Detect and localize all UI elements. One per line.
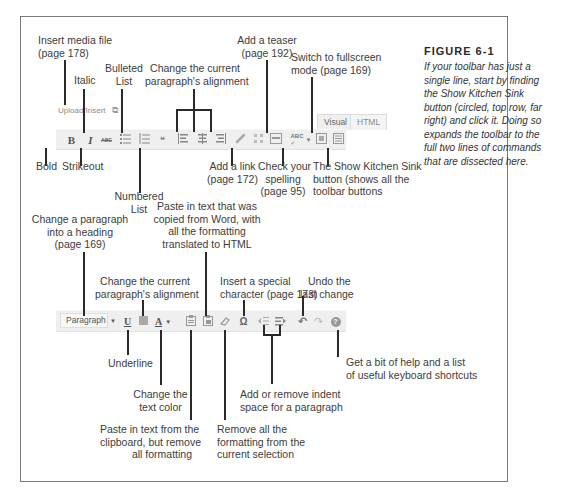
- leader-line: [266, 60, 268, 133]
- callout-bulleted-list: Bulleted List: [104, 62, 144, 87]
- kitchen-sink-button[interactable]: [331, 131, 346, 148]
- callout-text: mode (page 169): [291, 64, 381, 77]
- align-right-button[interactable]: [213, 131, 228, 148]
- leader-line: [127, 330, 129, 355]
- redo-button[interactable]: ↷: [311, 313, 326, 330]
- kitchen-sink-icon: [333, 133, 344, 146]
- align-right-icon: [215, 133, 226, 146]
- paste-plain-text-button[interactable]: [183, 313, 198, 330]
- callout-text: spelling: [258, 173, 308, 186]
- callout-text: Remove all the: [217, 423, 305, 436]
- leader-line: [337, 330, 339, 357]
- paste-from-word-button[interactable]: [200, 313, 215, 330]
- leader-line: [121, 89, 123, 133]
- callout-spelling: Check your spelling (page 95): [258, 160, 308, 198]
- insert-link-button[interactable]: [233, 131, 248, 148]
- callout-kitchen-sink: The Show Kitchen Sink button (shows all …: [313, 160, 422, 198]
- format-dropdown-button[interactable]: ▼: [108, 313, 118, 328]
- align-center-icon: [197, 133, 208, 146]
- chevron-down-icon: ▼: [306, 137, 312, 143]
- numbered-list-button[interactable]: [137, 131, 152, 148]
- leader-line: [243, 300, 245, 316]
- callout-paste-plain: Paste in text from the clipboard, but re…: [100, 423, 192, 461]
- tab-html[interactable]: HTML: [350, 114, 387, 130]
- blockquote-button[interactable]: ❝: [155, 131, 170, 148]
- callout-text: List: [104, 75, 144, 88]
- eraser-icon: [220, 316, 230, 328]
- callout-text: space for a paragraph: [240, 401, 343, 414]
- callout-fullscreen: Switch to fullscreen mode (page 169): [291, 51, 381, 76]
- justify-icon: [139, 316, 148, 327]
- tab-html-label: HTML: [357, 117, 380, 127]
- leader-line: [224, 330, 226, 420]
- callout-text: (page 169): [30, 238, 130, 251]
- callout-text: Insert media file: [38, 34, 112, 47]
- callout-text: Change the: [133, 388, 188, 401]
- callout-alignment-top: Change the current paragraph's alignment: [145, 62, 245, 87]
- leader-line: [302, 296, 304, 316]
- callout-text: button (shows all the: [313, 173, 422, 186]
- callout-text: paragraph's alignment: [95, 288, 195, 301]
- callout-text: Add a teaser: [232, 34, 302, 47]
- media-icon: ⧉: [112, 105, 118, 115]
- bold-icon: B: [68, 134, 75, 146]
- leader-line: [193, 109, 195, 132]
- bold-button[interactable]: B: [64, 131, 79, 148]
- leader-line: [210, 109, 212, 132]
- leader-line: [311, 77, 313, 133]
- help-icon: ?: [331, 317, 341, 327]
- tab-visual[interactable]: Visual: [317, 114, 354, 130]
- callout-paste-word: Paste in text that was copied from Word,…: [152, 200, 262, 250]
- fullscreen-button[interactable]: [314, 131, 329, 148]
- undo-icon: ↶: [298, 315, 307, 328]
- callout-strikeout: Strikeout: [62, 160, 103, 173]
- fullscreen-icon: [316, 133, 327, 146]
- leader-line: [83, 252, 85, 316]
- callout-text: text color: [133, 401, 188, 414]
- leader-line: [176, 109, 178, 132]
- spellcheck-button[interactable]: ABC✓ ▼: [290, 131, 312, 148]
- align-center-button[interactable]: [195, 131, 210, 148]
- strikethrough-button[interactable]: ABC: [99, 131, 114, 148]
- callout-text: paragraph's alignment: [145, 75, 245, 88]
- leader-line: [142, 300, 144, 316]
- chevron-down-icon: ▼: [110, 318, 116, 324]
- strikethrough-icon: ABC: [101, 137, 112, 143]
- align-left-button[interactable]: [176, 131, 191, 148]
- help-button[interactable]: ?: [328, 313, 343, 330]
- align-left-icon: [178, 133, 189, 146]
- bulleted-list-button[interactable]: [118, 131, 133, 148]
- callout-text: Add or remove indent: [240, 388, 343, 401]
- callout-help: Get a bit of help and a list of useful k…: [346, 356, 477, 381]
- upload-insert-label[interactable]: Upload/Insert ⧉: [58, 105, 118, 116]
- callout-underline: Underline: [108, 357, 153, 370]
- callout-text: into a heading: [30, 226, 130, 239]
- insert-more-button[interactable]: [268, 131, 283, 148]
- callout-heading: Change a paragraph into a heading (page …: [30, 213, 130, 251]
- upload-insert-text: Upload/Insert: [58, 106, 106, 115]
- leader-line: [193, 89, 195, 110]
- omega-icon: Ω: [239, 316, 247, 327]
- remove-formatting-button[interactable]: [217, 313, 232, 330]
- leader-line: [64, 60, 66, 105]
- tab-visual-label: Visual: [324, 117, 347, 127]
- callout-text: translated to HTML: [152, 238, 262, 251]
- callout-text: Check your: [258, 160, 308, 173]
- callout-text: Paste in text that was: [152, 200, 262, 213]
- callout-text: Switch to fullscreen: [291, 51, 381, 64]
- figure-title: FIGURE 6-1: [424, 45, 495, 57]
- callout-add-link: Add a link (page 172): [205, 160, 260, 185]
- italic-icon: I: [88, 134, 92, 146]
- callout-text: all formatting: [100, 448, 192, 461]
- callout-text: (page 172): [205, 173, 260, 186]
- italic-button[interactable]: I: [83, 131, 98, 148]
- text-color-button[interactable]: A ▼: [152, 313, 174, 330]
- callout-alignment-bottom: Change the current paragraph's alignment: [95, 275, 195, 300]
- more-tag-icon: [270, 133, 282, 146]
- leader-line: [160, 330, 162, 385]
- paste-word-icon: [203, 315, 213, 328]
- remove-link-button[interactable]: [251, 131, 266, 148]
- bulleted-list-icon: [120, 133, 131, 146]
- underline-button[interactable]: U: [120, 313, 135, 330]
- callout-text: Change a paragraph: [30, 213, 130, 226]
